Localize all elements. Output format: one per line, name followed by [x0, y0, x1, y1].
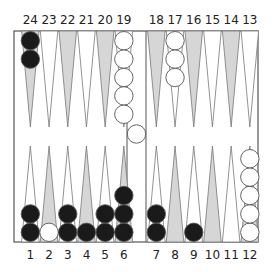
- point-label-7: 7: [153, 248, 161, 262]
- black-checker-point-6[interactable]: [115, 186, 133, 204]
- white-checker-point-12[interactable]: [241, 150, 259, 168]
- white-checker-point-17[interactable]: [166, 50, 184, 68]
- black-checker-point-1[interactable]: [21, 223, 39, 241]
- point-label-15: 15: [205, 13, 220, 27]
- point-label-20: 20: [98, 13, 113, 27]
- white-checker-point-12[interactable]: [241, 186, 259, 204]
- white-checker-point-12[interactable]: [241, 223, 259, 241]
- point-label-24: 24: [23, 13, 38, 27]
- point-label-8: 8: [171, 248, 179, 262]
- point-label-6: 6: [120, 248, 128, 262]
- white-checker-point-17[interactable]: [166, 32, 184, 50]
- black-checker-point-5[interactable]: [96, 205, 114, 223]
- black-checker-point-24[interactable]: [21, 32, 39, 50]
- point-label-16: 16: [186, 13, 201, 27]
- point-label-22: 22: [60, 13, 75, 27]
- white-checker-bar[interactable]: [127, 125, 145, 143]
- black-checker-point-4[interactable]: [77, 223, 95, 241]
- white-checker-point-2[interactable]: [40, 223, 58, 241]
- point-label-2: 2: [45, 248, 53, 262]
- point-label-18: 18: [149, 13, 164, 27]
- black-checker-point-9[interactable]: [185, 223, 203, 241]
- point-label-21: 21: [79, 13, 94, 27]
- white-checker-point-12[interactable]: [241, 205, 259, 223]
- black-checker-point-6[interactable]: [115, 205, 133, 223]
- black-checker-point-7[interactable]: [147, 205, 165, 223]
- backgammon-board: 242322212019181716151413 123456789101112: [0, 0, 274, 272]
- white-checker-point-19[interactable]: [115, 105, 133, 123]
- point-label-23: 23: [41, 13, 56, 27]
- point-label-3: 3: [64, 248, 72, 262]
- top-point-labels: 242322212019181716151413: [23, 13, 258, 27]
- point-label-11: 11: [224, 248, 239, 262]
- point-label-12: 12: [242, 248, 257, 262]
- black-checker-point-24[interactable]: [21, 50, 39, 68]
- point-label-19: 19: [116, 13, 131, 27]
- black-checker-point-3[interactable]: [59, 205, 77, 223]
- white-checker-point-19[interactable]: [115, 32, 133, 50]
- white-checker-point-12[interactable]: [241, 168, 259, 186]
- black-checker-point-6[interactable]: [115, 223, 133, 241]
- black-checker-point-5[interactable]: [96, 223, 114, 241]
- black-checker-point-1[interactable]: [21, 205, 39, 223]
- bottom-point-labels: 123456789101112: [27, 248, 258, 262]
- white-checker-point-17[interactable]: [166, 68, 184, 86]
- white-checker-point-19[interactable]: [115, 50, 133, 68]
- black-checker-point-3[interactable]: [59, 223, 77, 241]
- point-label-10: 10: [205, 248, 220, 262]
- point-label-17: 17: [167, 13, 182, 27]
- point-label-9: 9: [190, 248, 198, 262]
- point-label-14: 14: [224, 13, 239, 27]
- point-label-4: 4: [83, 248, 91, 262]
- white-checker-point-19[interactable]: [115, 87, 133, 105]
- white-checker-point-19[interactable]: [115, 68, 133, 86]
- point-label-13: 13: [242, 13, 257, 27]
- point-label-1: 1: [27, 248, 35, 262]
- black-checker-point-7[interactable]: [147, 223, 165, 241]
- point-label-5: 5: [101, 248, 109, 262]
